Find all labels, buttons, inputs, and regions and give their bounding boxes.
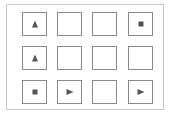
triangle-right-icon: [137, 89, 144, 95]
grid-cell[interactable]: [57, 46, 82, 70]
grid-cell[interactable]: [22, 46, 47, 70]
square-icon: [32, 90, 37, 95]
grid-cell[interactable]: [92, 12, 117, 36]
grid-cell[interactable]: [128, 80, 153, 104]
grid-cell[interactable]: [92, 46, 117, 70]
grid-cell[interactable]: [22, 80, 47, 104]
square-icon: [138, 22, 143, 27]
triangle-up-icon: [32, 55, 38, 62]
grid-cell[interactable]: [57, 12, 82, 36]
grid-cell[interactable]: [57, 80, 82, 104]
grid-cell[interactable]: [92, 80, 117, 104]
grid-cell[interactable]: [22, 12, 47, 36]
triangle-right-icon: [66, 89, 73, 95]
triangle-up-icon: [32, 21, 38, 28]
grid-cell[interactable]: [128, 12, 153, 36]
grid-cell[interactable]: [128, 46, 153, 70]
